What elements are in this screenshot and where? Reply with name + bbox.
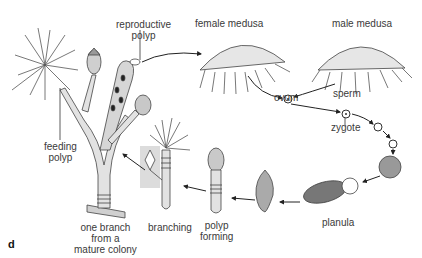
label-planula: planula <box>322 217 354 228</box>
label-sperm: sperm <box>333 88 361 99</box>
arrow-to-four-cell <box>383 131 390 138</box>
four-cell-stage <box>389 140 397 148</box>
arrow-to-branching <box>184 186 206 191</box>
label-male-medusa: male medusa <box>332 18 392 29</box>
arrow-to-polyp-forming <box>232 198 255 200</box>
label-female-medusa: female medusa <box>195 18 263 29</box>
label-ovum: ovum <box>274 92 298 103</box>
settling-larva-illustration <box>256 170 273 212</box>
label-feeding-polyp: feeding polyp <box>44 141 77 163</box>
branching-polyp-illustration <box>145 118 190 209</box>
panel-letter: d <box>8 238 15 250</box>
label-polyp-forming: polyp forming <box>200 220 233 242</box>
label-zygote: zygote <box>331 122 360 133</box>
arrow-to-medusa <box>142 53 201 62</box>
blastula-illustration <box>379 156 401 178</box>
planula-illustration <box>301 177 358 208</box>
label-branching: branching <box>148 222 192 233</box>
label-one-branch: one branch from a mature colony <box>74 222 137 255</box>
arrow-to-zygote <box>291 104 340 112</box>
female-medusa-illustration <box>200 45 290 94</box>
label-reproductive-polyp: reproductive polyp <box>116 19 171 41</box>
arrow-to-planula <box>363 176 380 182</box>
mature-colony-illustration <box>12 28 151 218</box>
polyp-forming-illustration <box>208 148 224 213</box>
arrow-male-to-ovum <box>294 84 335 97</box>
two-cell-stage <box>374 123 382 131</box>
